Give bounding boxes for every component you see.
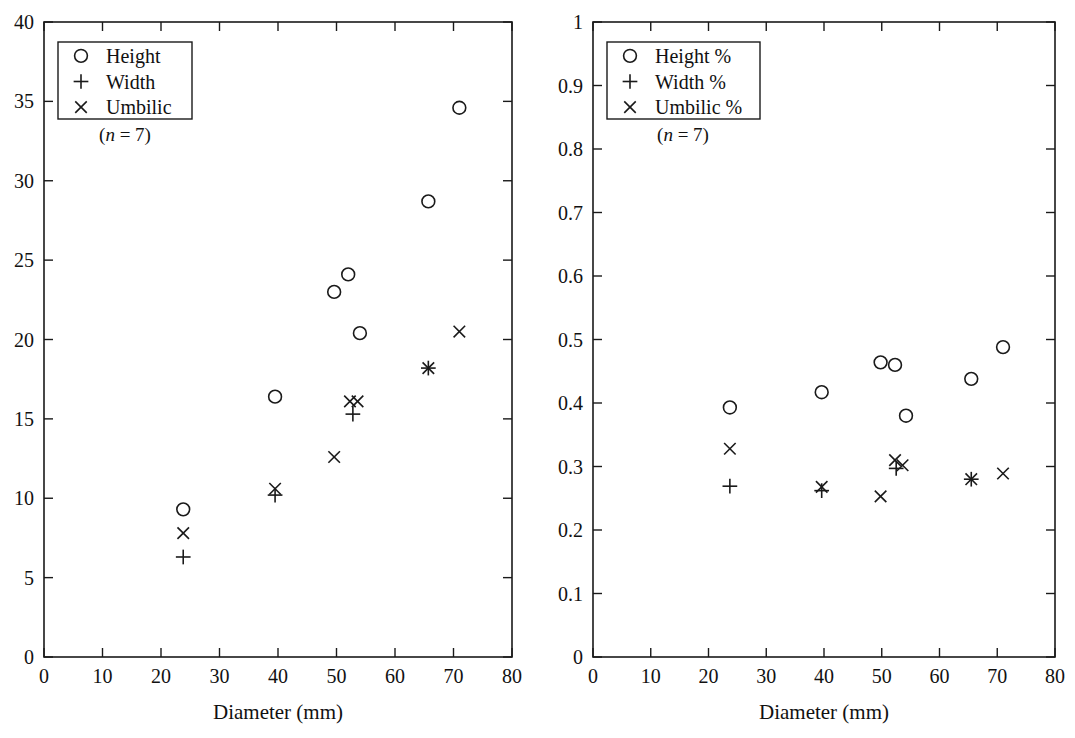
data-point-circle-marker <box>342 268 355 281</box>
x-tick-label: 20 <box>699 665 719 687</box>
data-point-cross-marker <box>454 326 466 338</box>
x-tick-label: 70 <box>987 665 1007 687</box>
data-points <box>176 101 466 564</box>
data-point-cross-marker <box>997 468 1009 480</box>
data-point-circle-marker <box>723 401 736 414</box>
x-tick-label: 60 <box>930 665 950 687</box>
y-tick-label: 0.1 <box>558 583 583 605</box>
x-axis-label: Diameter (mm) <box>759 700 889 724</box>
sample-size-note: (n = 7) <box>657 124 709 146</box>
y-tick-label: 40 <box>14 11 34 33</box>
x-tick-label: 20 <box>151 665 171 687</box>
y-tick-label: 0.8 <box>558 138 583 160</box>
x-tick-label: 30 <box>756 665 776 687</box>
data-point-circle-marker <box>900 409 913 422</box>
x-tick-label: 50 <box>327 665 347 687</box>
y-tick-label: 1 <box>573 11 583 33</box>
data-point-plus-marker <box>176 550 191 565</box>
x-axis-label: Diameter (mm) <box>213 700 343 724</box>
y-tick-label: 30 <box>14 170 34 192</box>
y-tick-label: 0.6 <box>558 265 583 287</box>
data-point-circle-marker <box>269 390 282 403</box>
right-scatter-panel: 0102030405060708000.10.20.30.40.50.60.70… <box>558 11 1065 724</box>
series-width <box>723 461 979 498</box>
x-tick-label: 80 <box>502 665 522 687</box>
series-umbilic <box>724 443 1009 502</box>
legend-label: Height % <box>655 45 731 68</box>
y-tick-label: 10 <box>14 487 34 509</box>
x-tick-label: 0 <box>39 665 49 687</box>
legend-label: Width % <box>655 71 726 93</box>
y-tick-label: 0.4 <box>558 392 583 414</box>
series-height <box>177 101 466 515</box>
y-tick-label: 0.9 <box>558 75 583 97</box>
data-point-circle-marker <box>453 101 466 114</box>
data-point-circle-marker <box>874 356 887 369</box>
x-tick-label: 50 <box>872 665 892 687</box>
data-point-plus-marker <box>814 483 829 498</box>
x-tick-label: 0 <box>588 665 598 687</box>
two-panel-scatter-figure: 010203040506070800510152025303540Diamete… <box>0 0 1075 738</box>
y-tick-label: 0.3 <box>558 456 583 478</box>
y-tick-label: 0 <box>24 646 34 668</box>
data-point-plus-marker <box>268 488 283 503</box>
x-axis: 01020304050607080 <box>588 22 1065 687</box>
y-tick-label: 15 <box>14 408 34 430</box>
y-tick-label: 0 <box>573 646 583 668</box>
data-point-cross-marker <box>897 459 909 471</box>
data-point-circle-marker <box>997 341 1010 354</box>
data-point-cross-marker <box>875 491 887 503</box>
data-point-plus-marker <box>346 407 361 422</box>
data-point-plus-marker <box>723 479 738 494</box>
x-tick-label: 40 <box>268 665 288 687</box>
series-height <box>723 341 1009 422</box>
legend: HeightWidthUmbilic <box>58 42 192 119</box>
y-tick-label: 35 <box>14 90 34 112</box>
y-tick-label: 0.7 <box>558 202 583 224</box>
data-point-circle-marker <box>328 285 341 298</box>
data-point-cross-marker <box>724 443 736 455</box>
data-points <box>723 341 1010 502</box>
sample-size-note: (n = 7) <box>99 124 151 146</box>
data-point-circle-marker <box>422 195 435 208</box>
legend-label: Height <box>106 45 161 68</box>
left-scatter-panel: 010203040506070800510152025303540Diamete… <box>14 11 522 724</box>
y-tick-label: 0.5 <box>558 329 583 351</box>
figure-canvas: 010203040506070800510152025303540Diamete… <box>0 0 1075 738</box>
x-tick-label: 30 <box>210 665 230 687</box>
series-width <box>176 361 436 565</box>
y-tick-label: 20 <box>14 329 34 351</box>
x-tick-label: 40 <box>814 665 834 687</box>
x-tick-label: 70 <box>444 665 464 687</box>
x-axis: 01020304050607080 <box>39 22 522 687</box>
data-point-circle-marker <box>965 372 978 385</box>
data-point-cross-marker <box>328 451 340 463</box>
data-point-circle-marker <box>354 327 367 340</box>
data-point-circle-marker <box>815 386 828 399</box>
data-point-cross-marker <box>352 396 364 408</box>
data-point-circle-marker <box>889 359 902 372</box>
series-umbilic <box>177 326 465 539</box>
x-tick-label: 10 <box>93 665 113 687</box>
data-point-cross-marker <box>177 527 189 539</box>
legend-label: Width <box>106 71 155 93</box>
y-tick-label: 5 <box>24 567 34 589</box>
data-point-cross-marker <box>889 454 901 466</box>
x-tick-label: 10 <box>641 665 661 687</box>
legend-label: Umbilic <box>106 96 172 118</box>
data-point-circle-marker <box>177 503 190 516</box>
y-tick-label: 25 <box>14 249 34 271</box>
legend: Height %Width %Umbilic % <box>607 42 760 119</box>
x-tick-label: 60 <box>385 665 405 687</box>
x-tick-label: 80 <box>1045 665 1065 687</box>
y-tick-label: 0.2 <box>558 519 583 541</box>
legend-label: Umbilic % <box>655 96 742 118</box>
